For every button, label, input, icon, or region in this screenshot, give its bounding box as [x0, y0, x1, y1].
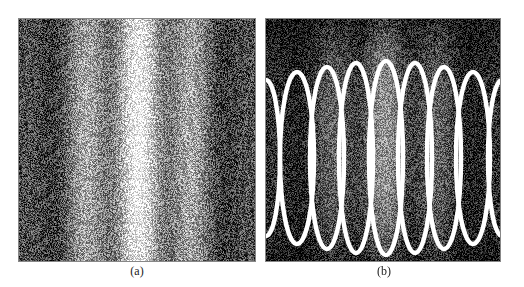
panel-b-caption: (b) — [364, 264, 404, 279]
panel-a-caption: (a) — [117, 264, 157, 279]
panel-a-fringe-image — [18, 18, 256, 262]
ellipse-contours-overlay — [266, 19, 501, 262]
panel-b-fringe-contour-image — [265, 18, 501, 262]
